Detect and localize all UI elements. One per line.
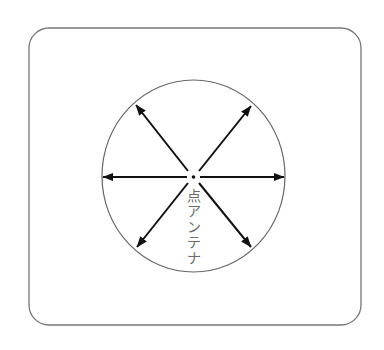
antenna-label-char: 点 [187, 189, 201, 204]
arrow-lower-left [137, 183, 188, 247]
antenna-diagram [0, 0, 384, 350]
arrow-lower-right [199, 183, 251, 247]
antenna-label-char: ア [187, 204, 201, 219]
arrow-upper-left [136, 105, 188, 171]
antenna-label-char: ナ [187, 251, 201, 266]
antenna-label-char: テ [187, 235, 201, 250]
point-source-dot [192, 175, 196, 179]
antenna-label-char: ン [187, 220, 201, 235]
arrow-upper-right [199, 106, 251, 171]
antenna-label: 点 ア ン テ ナ [184, 189, 203, 266]
